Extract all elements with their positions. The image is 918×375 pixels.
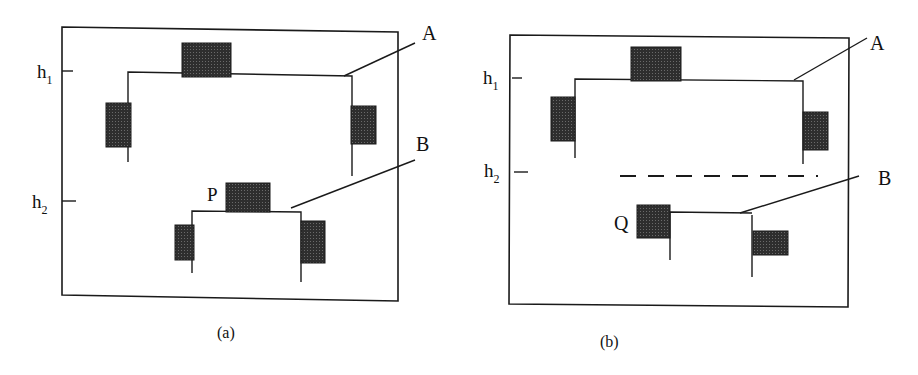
block-b-right <box>301 221 325 263</box>
block-a-left <box>106 103 131 147</box>
panel-a: h1 h2 A P B (a) <box>32 22 437 342</box>
h1-label: h1 <box>483 67 499 93</box>
block-a-top <box>182 43 231 77</box>
caption-a: (a) <box>217 324 235 342</box>
leader-a <box>794 38 867 80</box>
structure-a <box>106 43 376 176</box>
block-b-right <box>753 231 788 255</box>
label-b: B <box>416 133 429 155</box>
block-b-top <box>226 183 270 212</box>
figure-canvas: h1 h2 A P B (a) h1 h2 <box>0 0 918 375</box>
label-a: A <box>422 22 437 44</box>
structure-b <box>175 183 325 282</box>
structure-a <box>551 47 828 164</box>
panel-b: h1 h2 A Q B (b) <box>483 32 891 351</box>
leader-b <box>291 160 415 208</box>
block-q <box>637 205 670 238</box>
structure-b <box>637 205 788 277</box>
block-a-left <box>551 97 575 141</box>
block-a-right <box>803 112 828 150</box>
block-a-top <box>631 47 681 81</box>
block-a-right <box>351 106 376 144</box>
point-q-label: Q <box>614 212 629 234</box>
h2-label: h2 <box>484 160 500 186</box>
label-a: A <box>870 32 885 54</box>
h1-label: h1 <box>37 61 53 87</box>
leader-b <box>740 176 859 213</box>
block-b-left <box>175 225 194 260</box>
h2-label: h2 <box>32 191 48 217</box>
label-b: B <box>878 167 891 189</box>
caption-b: (b) <box>600 333 619 351</box>
point-p-label: P <box>207 184 218 205</box>
leader-a <box>344 43 415 76</box>
